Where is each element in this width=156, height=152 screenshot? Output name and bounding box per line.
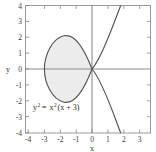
y-tick-label: 3 [18,17,22,26]
y-tick-label: -3 [16,113,22,122]
figure-container: -4 -3 -2 -1 0 1 2 3 4 3 2 1 0 -1 -2 -3 -… [0,0,156,152]
x-tick-label: 2 [122,135,126,144]
y-tick-label: 1 [18,49,22,58]
x-tick-label: -4 [25,135,31,144]
equation-lhs-exponent: 2 [38,102,41,108]
y-tick-label: -4 [16,129,22,138]
y-tick-label: -2 [16,97,22,106]
x-tick-label: 1 [106,135,110,144]
x-tick-labels: -4 -3 -2 -1 0 1 2 3 [25,135,142,144]
equation-lhs-base: y [33,103,37,112]
y-tick-label: 4 [18,2,22,11]
y-tick-label: -1 [16,81,22,90]
x-tick-label: -3 [41,135,47,144]
x-tick-label: -2 [57,135,63,144]
equation-rhs-base: x [50,103,54,112]
x-tick-label: 3 [138,135,142,144]
curve-plot: -4 -3 -2 -1 0 1 2 3 4 3 2 1 0 -1 -2 -3 -… [0,0,156,152]
equation-equals-sign: = [42,103,47,112]
y-axis-title: y [6,65,10,74]
x-tick-label: 0 [90,135,94,144]
x-tick-label: -1 [73,135,79,144]
y-tick-label: 0 [18,65,22,74]
y-tick-label: 2 [18,33,22,42]
x-axis-title: x [90,144,94,152]
y-tick-labels: 4 3 2 1 0 -1 -2 -3 -4 [16,2,23,139]
equation-rhs-tail: (x + 3) [58,103,80,112]
